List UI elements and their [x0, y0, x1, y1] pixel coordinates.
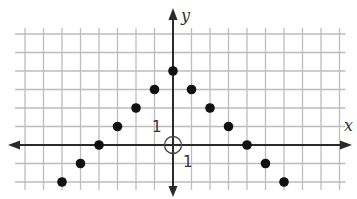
data-point [242, 140, 252, 150]
y-axis-down-arrow-icon [169, 186, 178, 197]
data-point [113, 122, 123, 132]
data-point [224, 122, 234, 132]
data-point [150, 85, 160, 95]
data-point [187, 85, 197, 95]
y-unit-label: 1 [152, 118, 162, 136]
x-axis-label: x [344, 116, 353, 135]
coordinate-plane: y x 1 1 [0, 0, 357, 199]
grid-lines [15, 28, 346, 190]
y-axis-label: y [180, 6, 191, 25]
x-unit-label: 1 [183, 153, 193, 171]
data-point [131, 103, 141, 113]
y-axis-up-arrow-icon [169, 8, 178, 20]
data-point [57, 177, 67, 187]
x-axis-right-arrow-icon [340, 141, 352, 150]
data-point [279, 177, 289, 187]
data-point [76, 159, 86, 169]
data-point [94, 140, 104, 150]
data-point [261, 159, 271, 169]
data-point [168, 66, 178, 76]
x-axis-left-arrow-icon [8, 141, 20, 150]
data-point [205, 103, 215, 113]
